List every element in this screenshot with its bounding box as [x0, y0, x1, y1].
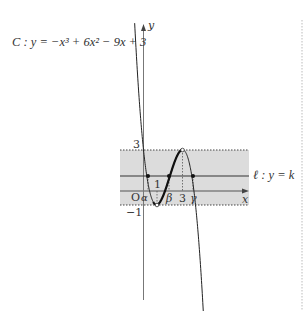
point-alpha [146, 174, 150, 178]
y-axis-arrow-icon [141, 24, 146, 31]
point-local-min [155, 203, 159, 207]
origin-label: O [131, 192, 140, 203]
y-axis-label: y [148, 20, 154, 31]
point-beta [167, 174, 171, 178]
point-local-max [181, 148, 185, 152]
label-alpha: α [141, 193, 148, 203]
label-beta: β [166, 193, 172, 204]
tick-label-y3: 3 [133, 139, 140, 150]
curve-equation-label: C : y = −x³ + 6x² − 9x + 3 [12, 36, 146, 49]
x-axis-label: x [242, 194, 248, 205]
label-gamma: γ [190, 193, 197, 204]
point-gamma [191, 174, 195, 178]
tick-label-x3: 3 [179, 193, 186, 204]
tick-label-x1: 1 [154, 179, 161, 190]
line-l-label: ℓ : y = k [253, 169, 294, 182]
tick-label-yneg1: −1 [126, 207, 142, 218]
